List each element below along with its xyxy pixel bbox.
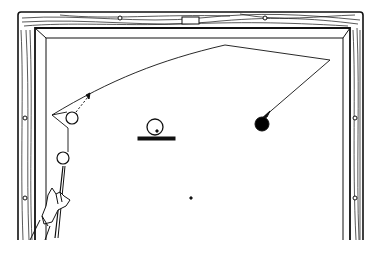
rail-inner-edge xyxy=(35,28,350,240)
diagram-canvas xyxy=(0,0,380,255)
hand-icon xyxy=(30,188,70,240)
rail-diamond-icon xyxy=(353,196,357,200)
center-spot-icon xyxy=(190,197,192,199)
rail-diamond-icon xyxy=(23,196,27,200)
rail-diamond-icon xyxy=(353,116,357,120)
rail-diamond-icon xyxy=(118,16,122,20)
deflection-dashed-line xyxy=(76,97,88,112)
target-ball-icon xyxy=(255,117,269,131)
table-outer-frame xyxy=(18,12,363,240)
cushion-edge xyxy=(46,38,343,240)
wood-grain-left xyxy=(21,30,32,240)
rail-label-plate xyxy=(182,17,199,24)
billiards-table-diagram xyxy=(0,0,380,255)
spot-bar xyxy=(138,137,175,140)
shot-path-line xyxy=(52,45,330,116)
spot-ball-icon xyxy=(147,119,163,135)
corner-miter-left xyxy=(35,28,46,38)
spot-dot-icon xyxy=(156,130,158,132)
rail-diamond-icon xyxy=(23,116,27,120)
wood-grain-right xyxy=(353,28,360,240)
cue-path-line xyxy=(52,115,68,152)
cue-ball-deflected-icon xyxy=(66,112,78,124)
cue-ball-start-icon xyxy=(57,152,69,164)
corner-miter-right xyxy=(343,28,350,38)
rail-diamond-icon xyxy=(263,16,267,20)
